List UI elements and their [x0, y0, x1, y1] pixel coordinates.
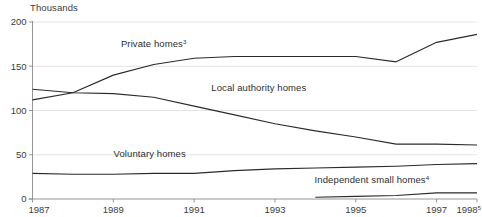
y-axis-tick-labels: 050100150200: [11, 16, 27, 204]
x-tick-label: 1987: [29, 204, 50, 215]
x-tick-label: 1993: [264, 204, 285, 215]
y-tick-label: 100: [11, 105, 27, 116]
series-label: Private homes3: [121, 37, 187, 49]
y-tick-label: 50: [16, 149, 27, 160]
chart-plot-area: 050100150200 198719891991199319951997199…: [0, 0, 482, 217]
line-chart: Thousands 050100150200 19871989199119931…: [0, 0, 482, 217]
x-tick-label: 1997: [426, 204, 447, 215]
series-line: [315, 193, 477, 197]
x-tick-label: 1989: [103, 204, 124, 215]
series-label: Local authority homes: [211, 82, 306, 93]
x-axis-tick-labels: 19871989199119931995199719985: [29, 203, 482, 215]
x-tick-label: 19985: [456, 203, 481, 215]
x-tick-label: 1995: [345, 204, 366, 215]
series-line: [33, 89, 478, 145]
x-tick-label: 1991: [184, 204, 205, 215]
y-tick-label: 0: [21, 193, 26, 204]
data-series: [33, 34, 478, 197]
y-tick-label: 150: [11, 61, 27, 72]
series-label: Independent small homes4: [315, 174, 430, 186]
series-line: [33, 164, 478, 175]
y-tick-label: 200: [11, 16, 27, 27]
series-label: Voluntary homes: [114, 148, 186, 159]
